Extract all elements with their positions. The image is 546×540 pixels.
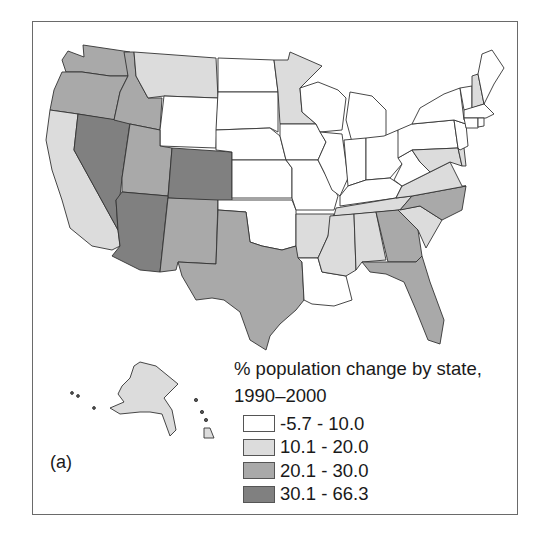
aleutian-islands (77, 395, 80, 398)
state-AZ[interactable] (112, 192, 168, 272)
legend-row: 30.1 - 66.3 (243, 483, 368, 507)
legend-title-line1: % population change by state, (234, 355, 482, 382)
state-IN[interactable] (344, 138, 366, 186)
legend-row: -5.7 - 10.0 (243, 412, 368, 436)
legend-row: 10.1 - 20.0 (243, 436, 368, 460)
state-OH[interactable] (366, 130, 402, 180)
aleutian-islands (93, 407, 96, 410)
state-ND[interactable] (218, 58, 278, 92)
legend-swatch-class-3 (243, 486, 275, 503)
state-AK[interactable] (110, 362, 178, 436)
state-HI[interactable] (204, 428, 214, 438)
state-HI-islands (200, 410, 203, 413)
legend-label: -5.7 - 10.0 (280, 413, 364, 435)
state-RI[interactable] (478, 118, 484, 127)
legend-title-line2: 1990–2000 (234, 382, 482, 409)
state-FL[interactable] (362, 256, 444, 344)
legend-label: 10.1 - 20.0 (280, 436, 368, 458)
state-NM[interactable] (160, 198, 218, 272)
state-MT[interactable] (134, 52, 218, 98)
legend-swatch-class-1 (243, 439, 275, 456)
legend: -5.7 - 10.0 10.1 - 20.0 20.1 - 30.0 30.1… (243, 412, 368, 506)
state-CO[interactable] (168, 148, 232, 202)
legend-title: % population change by state, 1990–2000 (234, 355, 482, 409)
state-WA[interactable] (62, 45, 130, 76)
aleutian-islands (71, 392, 74, 395)
state-KS[interactable] (232, 160, 292, 198)
panel-label: (a) (50, 452, 72, 473)
legend-swatch-class-0 (243, 415, 275, 432)
state-MI[interactable] (346, 92, 386, 142)
legend-swatch-class-2 (243, 462, 275, 479)
legend-label: 20.1 - 30.0 (280, 460, 368, 482)
state-WY[interactable] (160, 96, 218, 148)
state-HI-islands (194, 398, 197, 401)
legend-row: 20.1 - 30.0 (243, 459, 368, 483)
state-SD[interactable] (216, 92, 278, 132)
legend-label: 30.1 - 66.3 (280, 483, 368, 505)
state-CT[interactable] (464, 118, 478, 128)
state-HI-islands (204, 418, 207, 421)
